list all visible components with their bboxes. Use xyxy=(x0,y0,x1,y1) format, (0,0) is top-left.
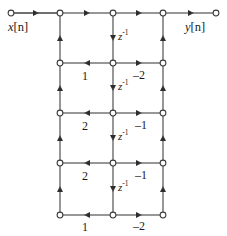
output-label-index: [n] xyxy=(191,20,206,34)
stage-2-feedback-gain: 2 xyxy=(82,120,88,132)
delay-4-exp: -1 xyxy=(122,179,128,188)
stage-1-feedback-gain: 1 xyxy=(82,70,88,82)
delay-2-exp: -1 xyxy=(122,78,128,87)
node-top-left xyxy=(57,10,63,16)
stage-4-feedforward-gain: –2 xyxy=(133,220,145,232)
delay-1-label: z-1 xyxy=(118,31,129,42)
node-r1-mid xyxy=(110,60,116,66)
delay-1-exp: -1 xyxy=(122,28,128,37)
node-r1-left xyxy=(57,60,63,66)
delay-4-label: z-1 xyxy=(118,182,129,193)
node-r3-right xyxy=(160,160,166,166)
node-r1-right xyxy=(160,60,166,66)
delay-2-label: z-1 xyxy=(118,81,129,92)
node-r4-left xyxy=(57,212,63,218)
input-label: x[n] xyxy=(8,21,28,34)
delay-3-label: z-1 xyxy=(118,131,129,142)
stage-4-feedback-gain: 1 xyxy=(82,221,88,233)
stage-2-feedforward-gain: –1 xyxy=(135,119,147,131)
input-label-index: [n] xyxy=(14,20,29,34)
node-r2-right xyxy=(160,110,166,116)
node-r4-mid xyxy=(110,212,116,218)
node-r2-mid xyxy=(110,110,116,116)
flow-graph-canvas xyxy=(0,0,227,236)
node-r3-left xyxy=(57,160,63,166)
stage-1-feedforward-gain: –2 xyxy=(133,69,145,81)
signal-flow-diagram: x[n] y[n] z-1 z-1 z-1 z-1 1 –2 2 –1 2 –1… xyxy=(0,0,227,236)
stage-3-feedforward-gain: –1 xyxy=(135,169,147,181)
node-r3-mid xyxy=(110,160,116,166)
node-r2-left xyxy=(57,110,63,116)
node-r4-right xyxy=(160,212,166,218)
node-top-mid xyxy=(110,10,116,16)
output-label: y[n] xyxy=(185,21,205,34)
node-input xyxy=(8,10,14,16)
delay-3-exp: -1 xyxy=(122,128,128,137)
node-top-right xyxy=(160,10,166,16)
node-output xyxy=(213,10,219,16)
stage-3-feedback-gain: 2 xyxy=(82,170,88,182)
